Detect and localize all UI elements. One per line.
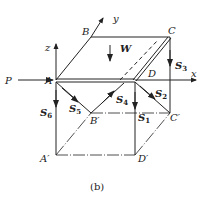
label-C-prime: C′	[170, 112, 181, 123]
label-A: A	[44, 75, 52, 86]
base-frame	[56, 113, 170, 155]
label-y-axis: y	[112, 13, 119, 24]
figure-caption: (b)	[90, 181, 104, 192]
label-P: P	[4, 75, 12, 86]
label-S2: S2	[155, 88, 167, 101]
label-S4: S4	[116, 94, 128, 107]
label-C: C	[168, 25, 176, 36]
label-B: B	[81, 26, 89, 37]
label-S3: S3	[175, 60, 187, 73]
label-A-prime: A′	[39, 153, 50, 164]
label-S1: S1	[138, 112, 150, 125]
force-S4-arrow	[102, 91, 114, 103]
force-S5-arrow	[62, 88, 78, 102]
label-x-axis: x	[191, 68, 197, 79]
label-D-prime: D′	[137, 153, 149, 164]
y-axis	[91, 18, 103, 37]
label-D: D	[147, 68, 156, 79]
label-B-prime: B′	[89, 115, 100, 126]
label-S5: S5	[69, 103, 81, 116]
label-z-axis: z	[44, 42, 51, 53]
statics-diagram: A B C D A′ B′ C′ D′ y x z P W S3 S2 S4 S…	[0, 0, 206, 203]
vertical-members	[56, 37, 170, 155]
edge-AB	[56, 37, 91, 80]
edge-A'B'	[56, 113, 91, 155]
force-S2-arrow	[140, 86, 155, 99]
label-S6: S6	[40, 107, 52, 120]
label-W: W	[120, 43, 133, 54]
